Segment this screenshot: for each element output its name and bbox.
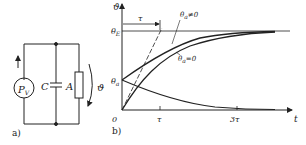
leader-nonzero xyxy=(172,20,180,44)
tau-bracket-label: τ xyxy=(138,14,143,23)
origin-label: 0 xyxy=(112,115,117,124)
curve-label-nonzero: θa≠0 xyxy=(180,11,199,20)
theta-a-label: θa xyxy=(111,77,120,87)
curve-decay xyxy=(122,80,275,110)
panel-a-label: a) xyxy=(12,128,21,138)
curve-theta-a-nonzero xyxy=(122,32,275,81)
capacitor-label: C xyxy=(41,81,49,92)
tangent-line xyxy=(122,28,162,110)
curve-label-zero: θa=0 xyxy=(178,55,197,64)
junction-dot-bottom xyxy=(55,123,58,126)
resistor-label: A xyxy=(65,81,73,92)
temperature-arrow-icon xyxy=(88,64,92,106)
x-tick-label-tau: τ xyxy=(157,115,162,124)
temperature-label: ϑ xyxy=(97,82,104,93)
x-axis-label: t xyxy=(294,114,298,124)
source-label: PV xyxy=(17,84,30,96)
panel-b-label: b) xyxy=(112,126,121,136)
resistor-symbol xyxy=(75,72,83,98)
theta-e-label: θE xyxy=(111,27,121,37)
junction-dot-top xyxy=(55,43,58,46)
y-axis-label: ϑ xyxy=(113,2,120,12)
figure-canvas: PV C A ϑ a) ϑ t 0 θE θa τ θa≠0 θa=0 τ 3τ… xyxy=(0,0,306,145)
curve-theta-a-zero xyxy=(122,32,275,110)
circuit-diagram xyxy=(14,43,92,126)
response-plot xyxy=(122,4,292,110)
x-tick-label-3tau: 3τ xyxy=(230,115,240,124)
